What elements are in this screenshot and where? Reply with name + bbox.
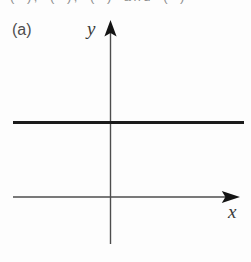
figure-panel-a: ( ), ( ), ( ) and ( ) (a) y x xyxy=(0,0,251,262)
axes-plot-canvas xyxy=(0,0,251,262)
